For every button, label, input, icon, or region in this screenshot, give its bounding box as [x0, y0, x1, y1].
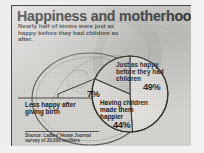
scan-bottom-margin: [0, 146, 204, 153]
graphic-panel: Happiness and motherhood Nearly half of …: [11, 5, 193, 148]
source-note: Source: Ladies' Home Journal survey of 2…: [25, 133, 113, 143]
source-line-2: survey of 20,000 mothers: [25, 138, 113, 143]
callout-less-happy-value: 7%: [87, 89, 100, 99]
callout-just-as-happy-value: 49%: [143, 82, 161, 92]
callout-made-happier-value: 44%: [113, 120, 131, 130]
source-divider: [25, 131, 99, 132]
scan-right-margin: [191, 0, 204, 153]
callout-less-happy-label: Less happy after giving birth: [25, 101, 79, 115]
callout-made-happier-label: Having children made them happier: [100, 99, 150, 121]
infographic-screenshot: Happiness and motherhood Nearly half of …: [0, 0, 204, 153]
callout-just-as-happy-label: Just as happy before they had children: [116, 61, 174, 83]
